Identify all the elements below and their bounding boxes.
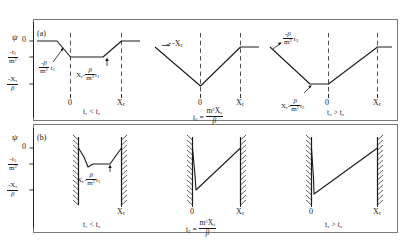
subpanel-b2 [187, 135, 246, 207]
panel-a-ytick-t1m2: -t1m2 [8, 49, 18, 65]
panel-a-tag: (a) [37, 30, 46, 38]
a3-xtick-xe: Xε [373, 99, 381, 107]
b1-curve [79, 148, 122, 167]
b2-wall-right [241, 135, 247, 205]
b1-wall-left [73, 135, 79, 205]
a3-xtick-0: 0 [325, 99, 329, 107]
subpanel-b3 [306, 135, 383, 207]
panel-a-yaxis [30, 22, 34, 118]
subpanel-a2 [155, 33, 259, 98]
a2-xtick-xe: Xε [236, 99, 244, 107]
a2-xtick-0: 0 [198, 99, 202, 107]
subpanel-b1 [73, 135, 127, 207]
panel-a-ytick-0: 0 [22, 36, 26, 44]
panel-b-yaxis-symbol: ψ [12, 133, 18, 142]
a1-annotation-plateau: Xε-βm2t1 [76, 67, 99, 82]
a1-xtick-xe: Xε [117, 99, 125, 107]
b2-curve [193, 148, 241, 190]
a1-curve [37, 41, 140, 57]
b3-wall-right [378, 135, 384, 205]
b1-annotation-plateau: Xε-βm2t1 [77, 172, 100, 187]
panel-a-ytick-xeb: -Xεβ [7, 76, 18, 92]
a2-curve [155, 47, 259, 86]
b3-curve [312, 148, 378, 194]
b1-xtick-xe: Xε [117, 208, 125, 216]
panel-b-tag: (b) [37, 134, 46, 142]
b3-condition: t₃ > t₂ [325, 221, 342, 229]
b2-xtick-0: 0 [190, 208, 194, 216]
a1-annotation-slope: -βm2t1 [39, 60, 55, 75]
panel-b-ytick-t1m2: -t1m2 [8, 156, 18, 172]
a3-xtick-expr: Xε-βm2t3 [281, 98, 304, 113]
panel-a-yaxis-symbol: ψ [12, 33, 18, 42]
a3-condition: t₃ > t₂ [327, 109, 344, 117]
b1-condition: t₁ < t₂ [83, 221, 100, 229]
a3-curve [270, 47, 392, 84]
b3-xtick-xe: Xε [373, 208, 381, 216]
panel-b-yaxis [30, 128, 34, 228]
b3-wall-left [306, 135, 312, 205]
b2-condition: t2 = m2Xεβ [186, 219, 216, 237]
a1-xtick-0: 0 [68, 99, 72, 107]
a2-condition: t2 = m2Xεβ [193, 107, 223, 125]
panel-b-ytick-xeb: -Xεβ [7, 182, 18, 198]
panel-b-ytick-0: 0 [22, 143, 26, 151]
figure-root: (a) ψ 0 -t1m2 -Xεβ -βm2t1 Xε-βm2t1 0 Xε … [0, 0, 401, 243]
a3-annotation-slope: -βm2t3 [283, 31, 298, 46]
b1-wall-right [122, 135, 128, 205]
b2-xtick-xe: Xε [236, 208, 244, 216]
b3-xtick-0: 0 [309, 208, 313, 216]
a1-condition: t₁ < t₂ [83, 108, 100, 116]
a2-annotation-apex: -Xε [172, 40, 183, 48]
b2-wall-left [187, 135, 193, 205]
